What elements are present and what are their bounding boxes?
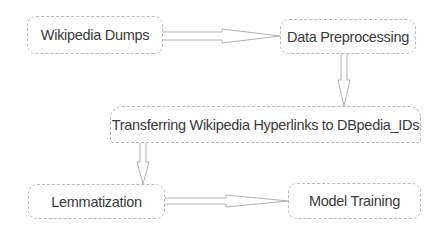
arrow-dumps-to-preprocessing — [163, 29, 280, 43]
node-transferring-hyperlinks: Transferring Wikipedia Hyperlinks to DBp… — [110, 106, 421, 143]
node-label: Transferring Wikipedia Hyperlinks to DBp… — [112, 117, 419, 133]
node-label: Model Training — [309, 193, 400, 209]
node-label: Wikipedia Dumps — [41, 27, 149, 43]
node-data-preprocessing: Data Preprocessing — [280, 19, 416, 54]
arrow-lemmatization-to-training — [165, 195, 288, 207]
arrow-preprocessing-to-transferring — [338, 54, 350, 106]
node-label: Lemmatization — [51, 194, 141, 210]
node-model-training: Model Training — [288, 183, 421, 219]
flowchart-canvas: Wikipedia Dumps Data Preprocessing Trans… — [0, 0, 447, 232]
node-lemmatization: Lemmatization — [28, 184, 165, 219]
node-wikipedia-dumps: Wikipedia Dumps — [27, 16, 163, 54]
arrow-transferring-to-lemmatization — [137, 143, 149, 184]
node-label: Data Preprocessing — [287, 29, 409, 45]
